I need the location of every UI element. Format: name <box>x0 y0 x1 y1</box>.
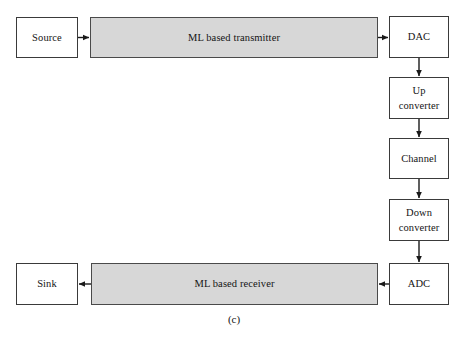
block-sink-label: Sink <box>34 277 60 290</box>
block-sink: Sink <box>16 263 78 305</box>
block-source-label: Source <box>29 31 65 44</box>
block-down-converter: Down converter <box>389 199 449 241</box>
block-ml-based-receiver-label: ML based receiver <box>191 277 277 290</box>
block-up-converter-label: Up converter <box>396 83 443 113</box>
block-ml-based-transmitter: ML based transmitter <box>90 17 378 58</box>
block-down-converter-label: Down converter <box>396 205 443 235</box>
block-dac: DAC <box>389 16 449 58</box>
block-up-converter: Up converter <box>389 77 449 119</box>
block-dac-label: DAC <box>405 30 433 43</box>
block-up-converter-line2: converter <box>399 100 440 111</box>
block-ml-based-transmitter-label: ML based transmitter <box>185 31 283 44</box>
block-channel: Channel <box>389 138 449 179</box>
block-adc-label: ADC <box>405 277 433 290</box>
figure-caption: (c) <box>0 313 468 325</box>
block-up-converter-line1: Up <box>412 85 425 96</box>
block-channel-label: Channel <box>398 152 440 165</box>
block-source: Source <box>16 17 78 58</box>
block-adc: ADC <box>389 263 449 305</box>
block-ml-based-receiver: ML based receiver <box>91 263 378 305</box>
block-down-converter-line2: converter <box>399 222 440 233</box>
block-diagram: Source ML based transmitter DAC Up conve… <box>0 0 468 344</box>
block-down-converter-line1: Down <box>406 207 432 218</box>
